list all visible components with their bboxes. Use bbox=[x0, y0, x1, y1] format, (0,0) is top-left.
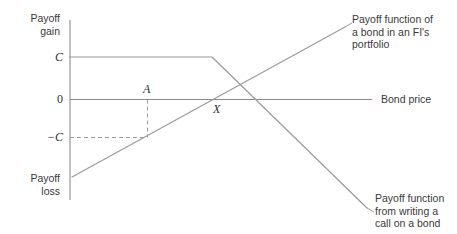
y-tick-label-c: C bbox=[20, 50, 63, 65]
axis-label-payoff-gain: Payoff gain bbox=[8, 12, 60, 37]
leader-line-written-call bbox=[367, 208, 374, 212]
series-bond-payoff-line bbox=[72, 27, 345, 177]
axis-label-payoff-loss: Payoff loss bbox=[8, 172, 60, 197]
point-label-a: A bbox=[143, 82, 150, 97]
point-label-x: X bbox=[213, 102, 220, 117]
axis-label-bond-price: Bond price bbox=[381, 93, 457, 106]
series-written-call-line bbox=[70, 57, 367, 208]
payoff-diagram: Payoff gain Payoff loss C 0 −C A X Payof… bbox=[0, 0, 457, 234]
leader-line-bond-payoff bbox=[345, 23, 352, 27]
y-tick-label-negative-c: −C bbox=[20, 130, 63, 145]
annotation-written-call-payoff-function: Payoff function from writing a call on a… bbox=[375, 192, 457, 230]
annotation-bond-payoff-function: Payoff function of a bond in an FI's por… bbox=[352, 13, 457, 51]
y-tick-label-zero: 0 bbox=[20, 92, 63, 107]
